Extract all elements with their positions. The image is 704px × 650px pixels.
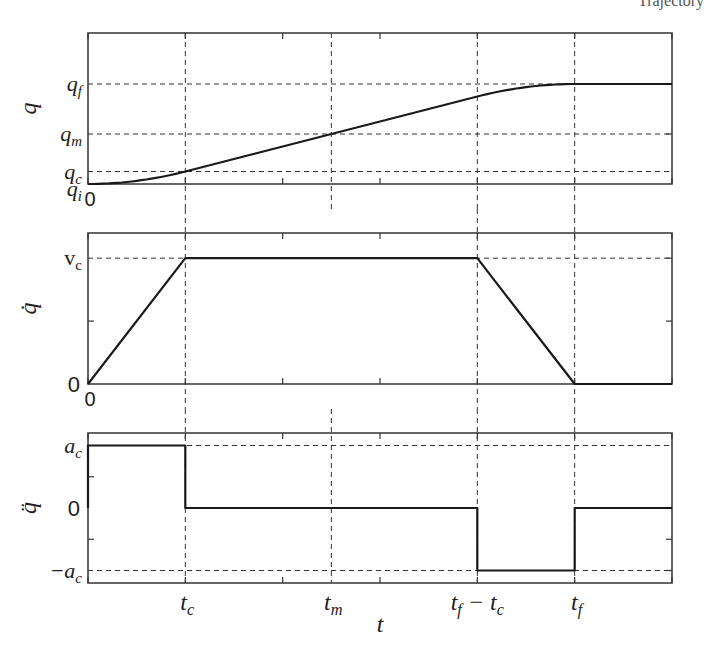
x-origin-label: 0 bbox=[84, 388, 95, 410]
y-axis-label: q bbox=[15, 103, 41, 115]
y-axis-label: q̈ bbox=[15, 502, 41, 514]
x-origin-label: 0 bbox=[84, 188, 95, 210]
axes-box bbox=[88, 233, 672, 384]
x-axis-label: t bbox=[377, 611, 385, 637]
y-zero-label: 0 bbox=[68, 496, 80, 521]
y-zero-label: 0 bbox=[68, 372, 80, 397]
label-a_c: ac bbox=[64, 433, 82, 461]
label-t_f-t_c: tf − tc bbox=[451, 589, 505, 619]
series-velocity bbox=[88, 258, 672, 384]
label-q_f: qf bbox=[67, 71, 84, 99]
acceleration-plot: ac−ac0q̈ bbox=[15, 409, 672, 586]
label-t_m: tm bbox=[324, 589, 343, 619]
x-axis-labels: tctmtf − tctft bbox=[180, 589, 584, 637]
label--a_c: −ac bbox=[50, 558, 83, 586]
label-q_m: qm bbox=[60, 121, 82, 149]
label-v_c: vc bbox=[64, 245, 82, 273]
series-acceleration bbox=[88, 446, 672, 571]
trajectory-figure: qfqmqcqi0q vc00q̇ ac−ac0q̈ tctmtf − tctf… bbox=[0, 0, 704, 650]
label-t_c: tc bbox=[180, 589, 195, 619]
axes-box bbox=[88, 33, 672, 184]
y-axis-label: q̇ bbox=[15, 303, 41, 315]
label-t_f: tf bbox=[571, 589, 585, 619]
velocity-plot: vc00q̇ bbox=[15, 209, 672, 410]
position-plot: qfqmqcqi0q bbox=[15, 33, 672, 210]
